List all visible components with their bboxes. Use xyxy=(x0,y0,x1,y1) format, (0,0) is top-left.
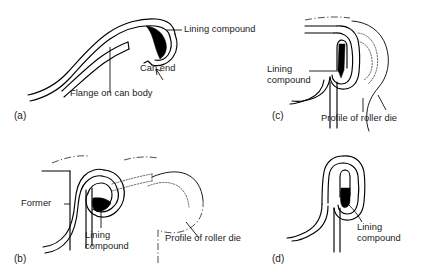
label-lining-compound-c: Lining compound xyxy=(267,64,311,87)
flange-tip xyxy=(128,42,129,49)
can-body-outer-wall-d xyxy=(287,204,322,238)
lining-compound-b xyxy=(92,198,111,211)
construction-line-b-left xyxy=(52,156,88,163)
label-lining-compound-b: Lining compound xyxy=(85,230,129,253)
panel-tag-c: (c) xyxy=(272,110,284,121)
panel-tag-d: (d) xyxy=(272,253,284,264)
label-profile-of-roller-die-b: Profile of roller die xyxy=(165,233,241,244)
construction-line-c xyxy=(305,17,350,20)
label-former-b: Former xyxy=(21,198,51,209)
flange-upper-surface xyxy=(62,42,128,91)
label-lining-compound-a: Lining compound xyxy=(184,24,256,35)
label-can-end-a: Can end xyxy=(140,63,176,74)
lining-compound-a xyxy=(146,26,166,59)
label-profile-of-roller-die-c: Profile of roller die xyxy=(321,113,397,124)
panel-tag-b: (b) xyxy=(14,253,26,264)
construction-line-b-right xyxy=(124,157,158,160)
leader-roller-die2-c xyxy=(378,95,386,110)
label-flange-on-can-body-a: Flange on can body xyxy=(70,88,153,99)
roller-die-groove2-c xyxy=(360,42,372,80)
panel-d-geometry xyxy=(287,156,365,252)
panel-tag-a: (a) xyxy=(14,110,26,121)
roller-die-groove-b xyxy=(148,182,189,207)
roller-die-profile-b xyxy=(158,200,203,233)
lining-compound-c xyxy=(338,44,345,78)
seaming-stages-figure: Lining compound Can end Flange on can bo… xyxy=(0,0,427,276)
label-lining-compound-d: Lining compound xyxy=(357,222,401,245)
